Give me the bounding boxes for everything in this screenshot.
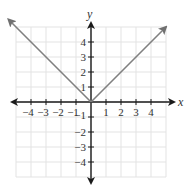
y-tick-label: 2 (81, 66, 87, 78)
x-tick-label: 4 (148, 106, 154, 118)
function-line (9, 20, 167, 103)
y-axis-label: y (86, 7, 93, 21)
x-tick-label: 2 (118, 106, 124, 118)
absolute-value-graph: x y −4−3−2−112344321−1−2−3−4 (0, 0, 186, 194)
function-left-branch (9, 20, 92, 103)
x-tick-label: 3 (133, 106, 139, 118)
x-tick-label: −4 (22, 106, 34, 118)
y-tick-label: 4 (81, 36, 87, 48)
y-tick-label: −3 (74, 141, 86, 153)
y-tick-label: 3 (81, 51, 87, 63)
y-axis: y (86, 7, 94, 183)
y-tick-label: −4 (74, 156, 86, 168)
function-right-branch (91, 27, 166, 102)
x-tick-label: −2 (52, 106, 64, 118)
y-tick-label: −2 (74, 126, 86, 138)
x-tick-label: 1 (103, 106, 109, 118)
x-axis-label: x (177, 95, 184, 109)
y-tick-label: −1 (74, 109, 86, 121)
y-tick-label: 1 (81, 81, 87, 93)
x-tick-label: −3 (37, 106, 49, 118)
